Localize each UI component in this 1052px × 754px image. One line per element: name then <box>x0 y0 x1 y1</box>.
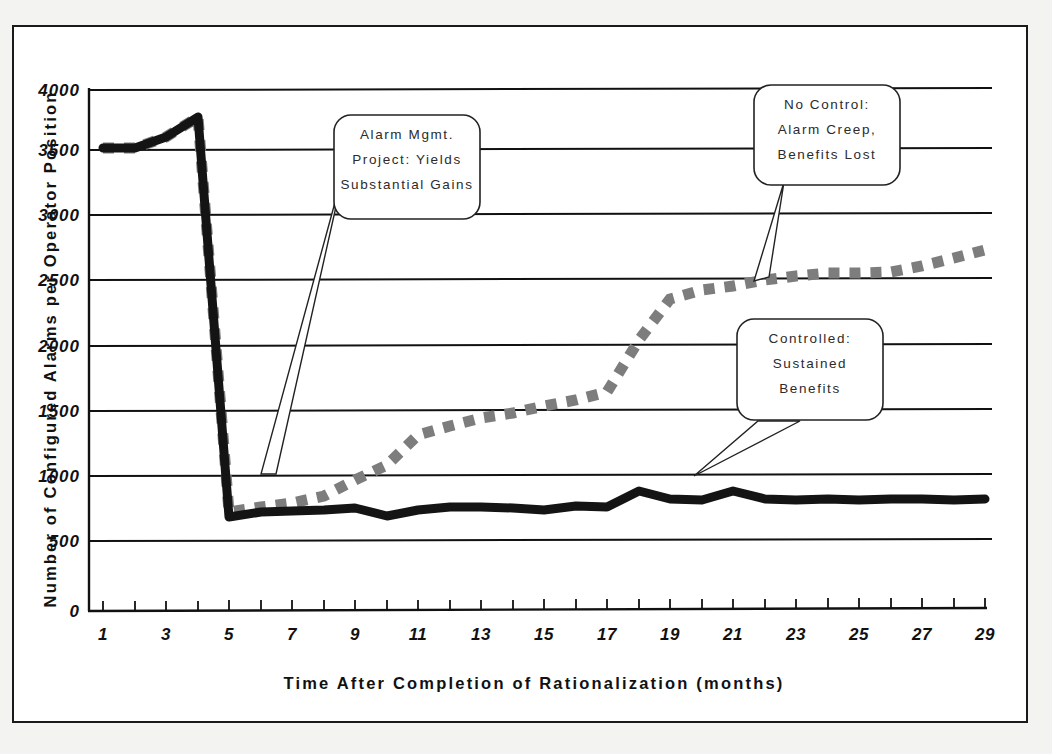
x-tick-label: 27 <box>911 625 933 644</box>
x-tick-label: 3 <box>161 625 171 644</box>
no-control-callout[interactable]: No Control: Alarm Creep, Benefits Lost <box>754 85 900 281</box>
x-tick-label: 23 <box>785 625 806 644</box>
no-control-callout-line-2: Alarm Creep, <box>778 122 877 137</box>
x-tick-label: 7 <box>287 625 298 644</box>
controlled-callout-line-3: Benefits <box>779 381 841 396</box>
controlled-callout-line-1: Controlled: <box>769 331 852 346</box>
x-axis-line <box>88 608 987 611</box>
x-axis-title: Time After Completion of Rationalization… <box>283 674 784 692</box>
controlled-callout-tail <box>694 421 800 476</box>
alarm-mgmt-callout[interactable]: Alarm Mgmt. Project: Yields Substantial … <box>261 115 480 474</box>
x-tick-label: 1 <box>98 625 108 644</box>
gridline-500 <box>88 539 992 541</box>
x-tick-label: 29 <box>974 625 995 644</box>
x-tick-label: 25 <box>848 625 869 644</box>
x-tick-label: 15 <box>534 625 554 644</box>
y-axis-title: Number of Configured Alarms per Operator… <box>41 91 59 608</box>
x-tick-label: 11 <box>409 625 428 644</box>
x-tick-label: 9 <box>350 625 360 644</box>
no-control-callout-line-1: No Control: <box>784 97 870 112</box>
x-tick-label: 17 <box>597 625 618 644</box>
gridline-3000 <box>88 213 992 215</box>
alarm-mgmt-callout-tail <box>261 162 346 474</box>
alarm-rationalization-chart: 4000 3500 3000 2500 2000 1500 1000 500 0… <box>14 27 1026 721</box>
alarm-mgmt-callout-line-1: Alarm Mgmt. <box>360 127 454 142</box>
alarm-mgmt-callout-line-3: Substantial Gains <box>340 177 473 192</box>
controlled-callout[interactable]: Controlled: Sustained Benefits <box>694 319 883 476</box>
y-tick-label: 0 <box>70 602 80 621</box>
figure-frame: 4000 3500 3000 2500 2000 1500 1000 500 0… <box>12 25 1028 723</box>
no-control-callout-line-3: Benefits Lost <box>778 147 877 162</box>
controlled-callout-line-2: Sustained <box>773 356 847 371</box>
no-control-callout-tail <box>754 182 784 281</box>
x-tick-labels: 1 3 5 7 9 11 13 15 17 19 21 23 25 27 29 <box>98 625 995 644</box>
alarm-mgmt-callout-line-2: Project: Yields <box>352 152 462 167</box>
x-tick-label: 19 <box>660 625 680 644</box>
chart-page: 4000 3500 3000 2500 2000 1500 1000 500 0… <box>0 0 1052 754</box>
x-tick-label: 5 <box>224 625 234 644</box>
x-tick-label: 13 <box>471 625 491 644</box>
x-tick-label: 21 <box>722 625 743 644</box>
